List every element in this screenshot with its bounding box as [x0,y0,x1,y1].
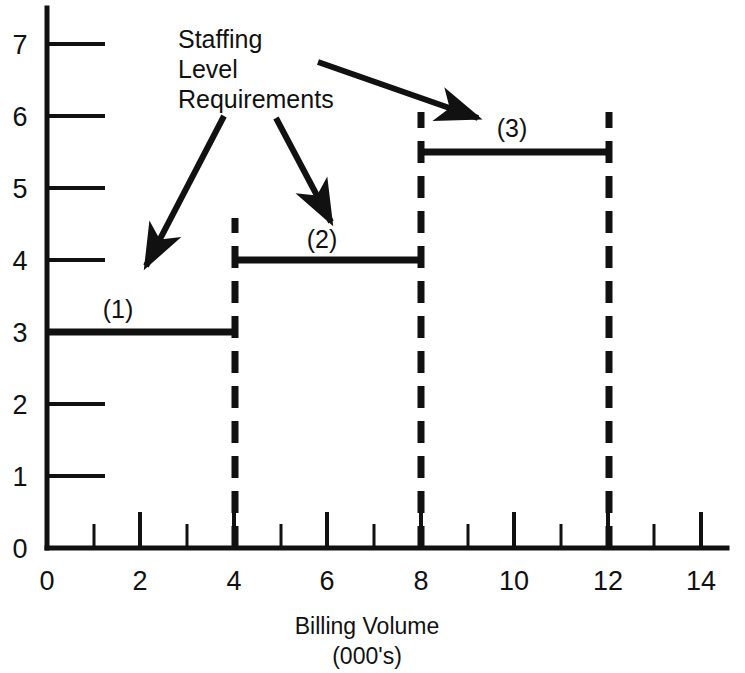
staffing-level-step-chart: 7 6 5 4 3 2 1 0 [0,0,745,673]
arrow-to-step-2 [276,118,331,222]
x-axis-tick-labels: 0 2 4 6 8 10 12 14 [39,566,716,596]
x-tick-label-6: 6 [319,566,334,596]
y-tick-label-4: 4 [12,246,27,276]
y-tick-label-7: 7 [12,30,27,60]
y-tick-label-2: 2 [12,390,27,420]
annotation-line-3: Requirements [178,85,334,113]
y-tick-label-5: 5 [12,174,27,204]
y-axis-tick-labels: 7 6 5 4 3 2 1 0 [12,30,27,564]
step-label-2: (2) [307,225,338,253]
step-label-1: (1) [103,295,134,323]
annotation-line-2: Level [178,55,238,83]
chart-container: 7 6 5 4 3 2 1 0 [0,0,745,673]
x-tick-label-4: 4 [226,566,241,596]
y-tick-label-6: 6 [12,102,27,132]
y-tick-label-1: 1 [12,462,27,492]
step-labels: (1) (2) (3) [103,114,528,323]
arrow-to-step-3 [318,62,478,118]
x-tick-label-8: 8 [413,566,428,596]
x-tick-label-12: 12 [593,566,623,596]
arrow-to-step-1 [146,116,224,266]
x-axis-title-line-2: (000's) [332,643,402,669]
x-axis-title-group: Billing Volume (000's) [295,613,439,669]
annotation-line-1: Staffing [178,25,262,53]
y-tick-label-3: 3 [12,318,27,348]
y-tick-label-0: 0 [12,534,27,564]
x-axis-title-line-1: Billing Volume [295,613,439,639]
x-tick-label-10: 10 [499,566,529,596]
x-tick-label-14: 14 [686,566,716,596]
step-risers [235,112,609,548]
x-tick-label-0: 0 [39,566,54,596]
y-axis-ticks [47,44,105,476]
step-label-3: (3) [497,114,528,142]
x-tick-label-2: 2 [132,566,147,596]
annotation-text-block: Staffing Level Requirements [178,25,334,113]
x-axis-minor-ticks [94,524,654,548]
